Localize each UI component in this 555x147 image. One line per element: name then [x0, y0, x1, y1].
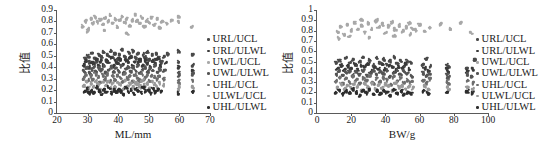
- legend-item-label: URL/UCL: [482, 34, 527, 45]
- legend-marker-icon: [207, 95, 210, 98]
- y-tick-label: 0.8: [301, 26, 313, 36]
- y-tick-label: 0.5: [41, 51, 53, 61]
- plot-area-right: 00.10.20.30.40.50.60.70.80.9102040608010…: [316, 10, 488, 114]
- legend-item[interactable]: UHL/ULWL: [207, 102, 269, 113]
- y-tick-label: 0.9: [41, 5, 53, 15]
- scatter-point: [148, 23, 150, 25]
- scatter-point: [192, 65, 194, 67]
- scatter-point: [351, 30, 353, 32]
- legend-left: URL/UCLURL/ULWLUWL/UCLUWL/ULWLUHL/UCLULW…: [207, 34, 269, 113]
- scatter-point: [123, 94, 125, 96]
- legend-item[interactable]: URL/UCL: [207, 34, 269, 45]
- y-tick-mark: [54, 113, 57, 114]
- scatter-point: [147, 52, 149, 54]
- plot-area-left: 00.10.20.30.40.50.60.70.80.9203040506070: [56, 10, 210, 114]
- y-tick-label: 0.6: [301, 46, 313, 56]
- scatter-point: [401, 60, 403, 62]
- y-tick-label: 0.8: [41, 17, 53, 27]
- legend-item-label: URL/UCL: [213, 34, 258, 45]
- legend-marker-icon: [207, 106, 210, 109]
- legend-item-label: UHL/UCL: [482, 80, 528, 91]
- scatter-point: [406, 64, 408, 66]
- y-tick-label: 0.3: [41, 74, 53, 84]
- y-tick-mark: [54, 67, 57, 68]
- legend-item[interactable]: ULWL/UCL: [207, 90, 269, 101]
- y-tick-label: 1: [308, 5, 313, 15]
- y-tick-mark: [314, 82, 317, 83]
- legend-item-label: UWL/ULWL: [482, 68, 538, 79]
- legend-item-label: ULWL/UCL: [213, 91, 266, 102]
- legend-marker-icon: [207, 38, 210, 41]
- legend-marker-icon: [476, 50, 479, 53]
- y-tick-mark: [54, 90, 57, 91]
- legend-marker-icon: [476, 72, 479, 75]
- legend-item[interactable]: UWL/ULWL: [207, 68, 269, 79]
- x-tick-label: 60: [415, 116, 425, 126]
- x-tick-label: 100: [481, 116, 495, 126]
- scatter-point: [150, 94, 152, 96]
- legend-marker-icon: [476, 106, 479, 109]
- legend-item-label: UWL/ULWL: [213, 68, 269, 79]
- y-tick-label: 0.4: [41, 62, 53, 72]
- legend-item[interactable]: UWL/UCL: [476, 57, 538, 68]
- legend-marker-icon: [207, 72, 210, 75]
- legend-item[interactable]: UHL/UCL: [207, 79, 269, 90]
- y-tick-mark: [54, 44, 57, 45]
- legend-marker-icon: [476, 38, 479, 41]
- chart-panel-left: 00.10.20.30.40.50.60.70.80.9203040506070…: [0, 0, 278, 147]
- legend-item[interactable]: URL/ULWL: [207, 45, 269, 56]
- scatter-point: [467, 92, 469, 94]
- legend-item-label: URL/ULWL: [213, 46, 266, 57]
- scatter-point: [354, 23, 356, 25]
- scatter-point: [365, 93, 367, 95]
- y-tick-label: 0.7: [41, 28, 53, 38]
- y-tick-mark: [54, 21, 57, 22]
- legend-item[interactable]: UWL/ULWL: [476, 68, 538, 79]
- scatter-point: [396, 29, 398, 31]
- scatter-point: [128, 92, 130, 94]
- y-tick-label: 0.4: [301, 67, 313, 77]
- x-tick-label: 80: [449, 116, 459, 126]
- scatter-figure: 00.10.20.30.40.50.60.70.80.9203040506070…: [0, 0, 555, 147]
- y-tick-label: 0.1: [301, 98, 313, 108]
- legend-item-label: UHL/ULWL: [213, 102, 267, 113]
- scatter-point: [178, 51, 180, 53]
- y-tick-mark: [314, 72, 317, 73]
- y-tick-mark: [314, 51, 317, 52]
- legend-item[interactable]: URL/UCL: [476, 34, 538, 45]
- x-tick-label: 30: [83, 116, 93, 126]
- scatter-point: [472, 69, 474, 71]
- scatter-point: [449, 67, 451, 69]
- scatter-point: [133, 94, 135, 96]
- legend-item[interactable]: ULWL/UCL: [476, 90, 538, 101]
- legend-marker-icon: [476, 95, 479, 98]
- x-tick-label: 40: [381, 116, 391, 126]
- y-tick-mark: [314, 92, 317, 93]
- legend-item[interactable]: UHL/ULWL: [476, 102, 538, 113]
- scatter-point: [472, 83, 474, 85]
- legend-item[interactable]: UHL/UCL: [476, 79, 538, 90]
- y-tick-mark: [314, 103, 317, 104]
- legend-marker-icon: [476, 84, 479, 87]
- chart-panel-right: 00.10.20.30.40.50.60.70.80.9102040608010…: [278, 0, 555, 147]
- x-tick-label: 70: [205, 116, 215, 126]
- scatter-point: [83, 26, 85, 28]
- y-tick-label: 0.9: [301, 16, 313, 26]
- legend-item[interactable]: UWL/UCL: [207, 57, 269, 68]
- y-tick-label: 0.2: [41, 85, 53, 95]
- scatter-point: [127, 33, 129, 35]
- legend-item-label: UWL/UCL: [482, 57, 530, 68]
- y-axis-title-right: 比值: [279, 52, 295, 74]
- scatter-point: [368, 64, 370, 66]
- x-tick-label: 20: [52, 116, 62, 126]
- y-tick-label: 0.6: [41, 40, 53, 50]
- y-tick-mark: [314, 62, 317, 63]
- legend-marker-icon: [207, 61, 210, 64]
- legend-item[interactable]: URL/ULWL: [476, 45, 538, 56]
- y-tick-label: 0.7: [301, 36, 313, 46]
- legend-item-label: UHL/UCL: [213, 80, 259, 91]
- scatter-points-right: [317, 10, 488, 113]
- y-tick-mark: [54, 56, 57, 57]
- scatter-point: [178, 75, 180, 77]
- x-axis-title-right: BW/g: [316, 128, 488, 140]
